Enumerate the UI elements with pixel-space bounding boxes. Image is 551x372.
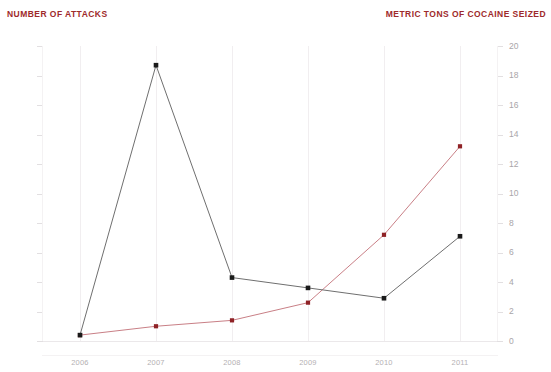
data-point-marker: [230, 275, 235, 280]
x-axis-tick-label: 2011: [452, 358, 469, 367]
x-axis-tick-label: 2008: [223, 358, 241, 367]
x-axis-tick-label: 2007: [147, 358, 165, 367]
data-point-marker: [78, 333, 83, 338]
right-axis-tick-label: 10: [509, 188, 518, 198]
right-axis-tick-label: 6: [509, 247, 514, 257]
right-axis-tick-label: 16: [509, 100, 518, 110]
right-axis-tick-label: 4: [509, 277, 514, 287]
data-point-marker: [458, 144, 462, 148]
attacks-line: [80, 65, 460, 335]
x-axis-tick-label: 2009: [299, 358, 317, 367]
right-axis-tick-label: 18: [509, 70, 518, 80]
cocaine-seized-markers: [78, 144, 462, 337]
right-axis-tick-label: 14: [509, 129, 518, 139]
x-axis-tick-label: 2006: [71, 358, 89, 367]
right-axis-tick-label: 0: [509, 336, 514, 346]
right-axis-tick-label: 8: [509, 218, 514, 228]
x-axis-tick-label: 2010: [375, 358, 393, 367]
right-axis-tick-label: 2: [509, 306, 514, 316]
dual-axis-line-chart: NUMBER OF ATTACKS METRIC TONS OF COCAINE…: [0, 0, 551, 372]
right-axis-tick-label: 20: [509, 41, 518, 51]
data-point-marker: [382, 296, 387, 301]
data-point-marker: [306, 301, 310, 305]
data-point-marker: [154, 324, 158, 328]
data-point-marker: [382, 233, 386, 237]
data-point-marker: [154, 63, 159, 68]
series-layer: [0, 0, 551, 372]
attacks-markers: [78, 63, 463, 338]
right-axis-tick-label: 12: [509, 159, 518, 169]
data-point-marker: [306, 286, 311, 291]
cocaine-seized-line: [80, 146, 460, 335]
data-point-marker: [458, 234, 463, 239]
data-point-marker: [230, 318, 234, 322]
